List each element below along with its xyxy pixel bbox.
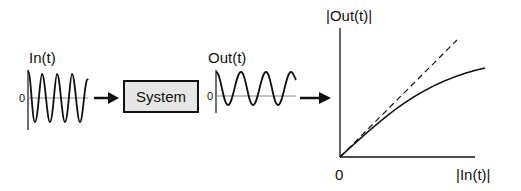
system-box: System [123, 80, 199, 113]
input-label: In(t) [29, 50, 56, 65]
output-waveform [216, 70, 296, 113]
arrow-output-to-plot [300, 92, 331, 104]
plot-x-axis-label: |In(t)| [456, 167, 490, 182]
input-zero-label: 0 [19, 93, 25, 104]
arrow-input-to-system [94, 92, 119, 104]
linear-reference-line [340, 40, 457, 157]
system-label: System [136, 88, 186, 105]
plot-origin-label: 0 [335, 167, 343, 182]
output-label: Out(t) [208, 50, 246, 65]
plot-y-axis-label: |Out(t)| [326, 8, 372, 23]
diagram-canvas [0, 0, 521, 191]
saturating-response-curve [340, 68, 485, 157]
input-waveform [28, 70, 88, 130]
output-zero-label: 0 [207, 91, 213, 102]
